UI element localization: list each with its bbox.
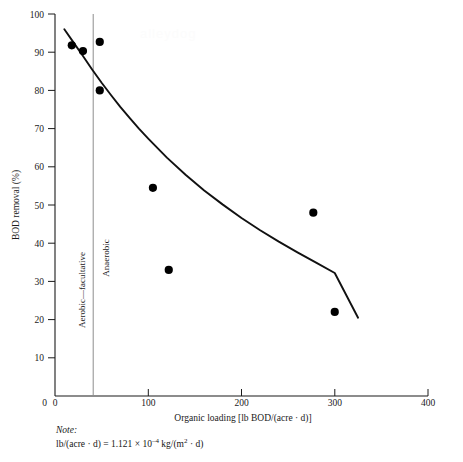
y-tick-label-0: 0: [42, 398, 47, 408]
chart-figure: alleydog 100 90 80 7: [0, 0, 463, 462]
note-conversion-row: lb/(acre · d) = 1.121 × 10–4 kg/(m2 · d): [56, 437, 203, 451]
figure-note: Note: lb/(acre · d) = 1.121 × 10–4 kg/(m…: [56, 424, 203, 451]
region-label-aerobic-facultative: Aerobic—facultative: [77, 252, 87, 328]
data-point: [149, 184, 157, 192]
x-tick-label-100: 100: [141, 398, 156, 408]
bod-removal-scatter-chart: 100 90 80 70 60 50 40 30 20 10 0 0 100 2…: [0, 0, 463, 462]
y-tick-label-50: 50: [35, 201, 45, 211]
x-tick-label-0: 0: [53, 398, 58, 408]
chart-background: [0, 0, 463, 462]
y-tick-label-90: 90: [35, 48, 45, 58]
y-axis-title: BOD removal (%): [11, 170, 22, 240]
region-label-anaerobic: Anaerobic: [101, 239, 111, 276]
data-point: [331, 308, 339, 316]
watermark-text: alleydog: [140, 26, 196, 41]
y-tick-label-20: 20: [35, 315, 45, 325]
note-conversion-tail: · d): [188, 439, 204, 449]
data-point: [165, 266, 173, 274]
data-point: [96, 38, 104, 46]
x-tick-label-200: 200: [234, 398, 249, 408]
y-tick-label-60: 60: [35, 162, 45, 172]
note-conversion-mid: kg/(m: [159, 439, 184, 449]
note-heading-row: Note:: [56, 424, 203, 437]
data-point: [68, 41, 76, 49]
note-exponent-one: –4: [152, 437, 159, 445]
y-tick-label-10: 10: [35, 353, 45, 363]
y-tick-label-100: 100: [30, 10, 45, 20]
x-tick-label-300: 300: [328, 398, 343, 408]
y-tick-label-80: 80: [35, 86, 45, 96]
y-tick-label-30: 30: [35, 277, 45, 287]
note-heading: Note:: [56, 425, 77, 435]
y-tick-label-70: 70: [35, 124, 45, 134]
x-tick-label-400: 400: [421, 398, 436, 408]
note-conversion-lead: lb/(acre · d) = 1.121 × 10: [56, 439, 152, 449]
data-point: [96, 86, 104, 94]
y-tick-label-40: 40: [35, 239, 45, 249]
data-point: [309, 209, 317, 217]
data-point: [79, 47, 87, 55]
x-axis-title: Organic loading [lb BOD/(acre · d)]: [174, 413, 311, 424]
